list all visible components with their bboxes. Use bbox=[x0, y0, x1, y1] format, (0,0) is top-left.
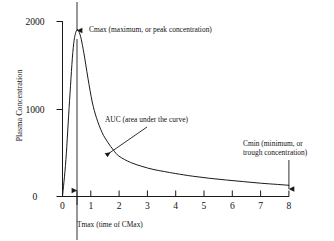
y-tick-label-1000: 1000 bbox=[16, 104, 54, 115]
cmin-annotation-label: Cmin (minimum, or trough concentration) bbox=[243, 139, 307, 157]
pharmacokinetic-curve-figure: Plasma Concentration 2000 1000 0 0 1 2 3… bbox=[0, 0, 334, 241]
x-tick-label-8: 8 bbox=[279, 200, 299, 211]
concentration-curve bbox=[63, 29, 289, 196]
y-tick-label-0: 0 bbox=[16, 191, 54, 202]
x-tick-label-0: 0 bbox=[53, 200, 73, 211]
y-tick-label-2000: 2000 bbox=[16, 16, 54, 27]
x-tick-label-1: 1 bbox=[81, 200, 101, 211]
x-tick-label-4: 4 bbox=[166, 200, 186, 211]
x-tick-label-2: 2 bbox=[109, 200, 129, 211]
x-axis-ticks bbox=[63, 191, 289, 197]
cmax-annotation-label: Cmax (maximum, or peak concentration) bbox=[89, 25, 212, 34]
x-tick-label-6: 6 bbox=[222, 200, 242, 211]
y-axis-ticks bbox=[57, 22, 63, 197]
tmax-axis-title: Tmax (time of CMax) bbox=[77, 220, 143, 229]
auc-arrow bbox=[107, 127, 148, 155]
x-tick-label-3: 3 bbox=[137, 200, 157, 211]
auc-annotation-label: AUC (area under the curve) bbox=[105, 115, 188, 124]
x-tick-label-5: 5 bbox=[194, 200, 214, 211]
x-tick-label-7: 7 bbox=[251, 200, 271, 211]
